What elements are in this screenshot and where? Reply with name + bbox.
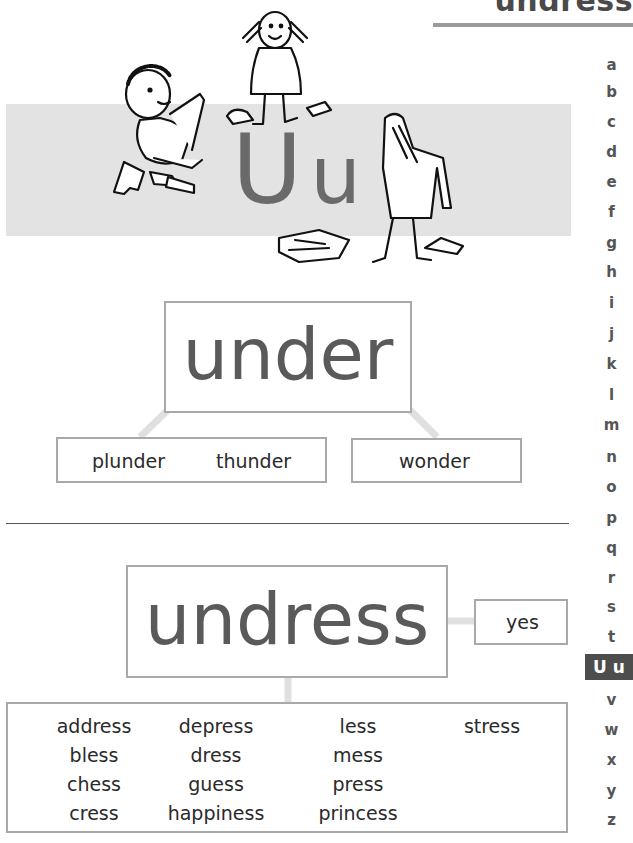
section-divider <box>6 523 569 524</box>
list-item: dress <box>156 741 276 770</box>
list-item: depress <box>156 712 276 741</box>
list-item: chess <box>34 770 154 799</box>
word-column-3: less mess press princess <box>298 712 418 828</box>
list-item: stress <box>432 712 552 741</box>
list-item: press <box>298 770 418 799</box>
side-label-yes: yes <box>506 611 539 633</box>
branch-word: plunder <box>92 450 165 472</box>
list-item: cress <box>34 799 154 828</box>
branch-box-1: plunder thunder <box>56 437 327 483</box>
list-item: mess <box>298 741 418 770</box>
list-item: happiness <box>156 799 276 828</box>
branch-word: wonder <box>399 450 470 472</box>
side-label-box: yes <box>474 599 568 645</box>
root-word-undress: undress <box>145 577 429 661</box>
branch-word: thunder <box>216 450 291 472</box>
word-column-2: depress dress guess happiness <box>156 712 276 828</box>
word-column-1: address bless chess cress <box>34 712 154 828</box>
word-column-4: stress <box>432 712 552 741</box>
word-list-box: address bless chess cress depress dress … <box>6 702 568 833</box>
root-word-box-under: under <box>164 301 412 413</box>
list-item: less <box>298 712 418 741</box>
root-word-under: under <box>183 312 394 396</box>
list-item: princess <box>298 799 418 828</box>
list-item: address <box>34 712 154 741</box>
list-item: guess <box>156 770 276 799</box>
root-word-box-undress: undress <box>126 565 448 678</box>
list-item: bless <box>34 741 154 770</box>
branch-box-2: wonder <box>351 438 522 483</box>
